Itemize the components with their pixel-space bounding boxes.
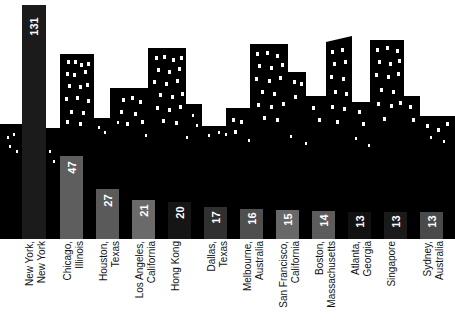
category-label-dallas: Dallas, Texas: [206, 241, 229, 329]
bar-atlanta[interactable]: 13: [348, 212, 371, 239]
bar-value-label: 14: [318, 214, 329, 226]
skyline-bar-chart: 131 47 27 21 20 17 16 15 14 13: [0, 0, 455, 329]
category-label-atlanta: Atlanta, Georgia: [350, 241, 373, 329]
bar-value-label: 17: [210, 211, 221, 223]
category-label-san-francisco: San Francisco, California: [278, 241, 301, 329]
category-label-houston: Houston, Texas: [98, 241, 121, 329]
category-label-chicago: Chicago, Illinois: [62, 241, 85, 329]
bar-sydney[interactable]: 13: [420, 212, 443, 239]
bar-san-francisco[interactable]: 15: [276, 210, 299, 239]
bar-hong-kong[interactable]: 20: [168, 202, 191, 239]
bar-singapore[interactable]: 13: [384, 212, 407, 239]
bar-value-label: 47: [66, 161, 77, 173]
bar-value-label: 13: [390, 215, 401, 227]
category-label-los-angeles: Los Angeles, California: [134, 241, 157, 329]
category-label-new-york: New York, New York: [24, 241, 47, 329]
bar-dallas[interactable]: 17: [204, 207, 227, 239]
bar-value-label: 15: [282, 213, 293, 225]
category-label-singapore: Singapore: [386, 241, 398, 329]
bar-value-label: 131: [29, 17, 40, 35]
bar-value-label: 13: [426, 215, 437, 227]
category-label-melbourne: Melbourne, Australia: [242, 241, 265, 329]
category-label-boston: Boston, Massachusetts: [314, 241, 337, 329]
bar-los-angeles[interactable]: 21: [132, 200, 155, 239]
bar-new-york[interactable]: 131: [22, 5, 46, 239]
bar-value-label: 27: [102, 194, 113, 206]
bar-houston[interactable]: 27: [96, 189, 119, 239]
bar-value-label: 16: [246, 212, 257, 224]
bar-melbourne[interactable]: 16: [240, 209, 263, 239]
bar-value-label: 20: [174, 206, 185, 218]
category-labels: New York, New York Chicago, Illinois Hou…: [0, 239, 455, 329]
bar-boston[interactable]: 14: [312, 211, 335, 239]
bar-value-label: 21: [138, 204, 149, 216]
bar-chicago[interactable]: 47: [60, 156, 83, 239]
category-label-sydney: Sydney, Australia: [422, 241, 445, 329]
bars-layer: 131 47 27 21 20 17 16 15 14 13: [0, 0, 455, 239]
bar-value-label: 13: [354, 215, 365, 227]
category-label-hong-kong: Hong Kong: [170, 241, 182, 329]
